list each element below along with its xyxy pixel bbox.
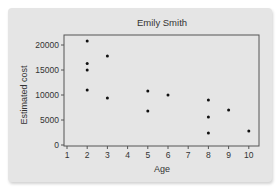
data-point xyxy=(247,130,250,133)
x-tick-label: 4 xyxy=(125,150,130,160)
x-tick-label: 6 xyxy=(166,150,171,160)
data-point xyxy=(207,99,210,102)
x-tick-label: 2 xyxy=(85,150,90,160)
plot-frame xyxy=(64,35,259,146)
y-axis-ticks: 05000100001500020000 xyxy=(35,40,64,150)
y-tick-label: 0 xyxy=(54,140,59,150)
data-point xyxy=(86,89,89,92)
data-point xyxy=(86,69,89,72)
x-tick-label: 10 xyxy=(244,150,254,160)
data-point xyxy=(207,132,210,135)
x-axis-ticks: 12345678910 xyxy=(65,146,254,160)
data-point xyxy=(167,94,170,97)
y-tick-label: 15000 xyxy=(35,65,59,75)
data-point xyxy=(106,97,109,100)
x-tick-label: 1 xyxy=(65,150,70,160)
x-tick-label: 9 xyxy=(226,150,231,160)
y-axis-label: Estimated cost xyxy=(19,65,29,125)
y-tick-label: 10000 xyxy=(35,90,59,100)
x-tick-label: 8 xyxy=(206,150,211,160)
data-point xyxy=(207,116,210,119)
data-point xyxy=(146,110,149,113)
data-point xyxy=(86,62,89,65)
data-point xyxy=(106,55,109,58)
scatter-plot: 05000100001500020000 12345678910 Estimat… xyxy=(0,0,280,192)
x-tick-label: 5 xyxy=(145,150,150,160)
data-points xyxy=(86,40,251,135)
x-tick-label: 3 xyxy=(105,150,110,160)
data-point xyxy=(227,109,230,112)
data-point xyxy=(86,40,89,43)
y-tick-label: 20000 xyxy=(35,40,59,50)
x-tick-label: 7 xyxy=(186,150,191,160)
x-axis-label: Age xyxy=(154,164,170,174)
y-tick-label: 5000 xyxy=(40,115,59,125)
data-point xyxy=(146,90,149,93)
